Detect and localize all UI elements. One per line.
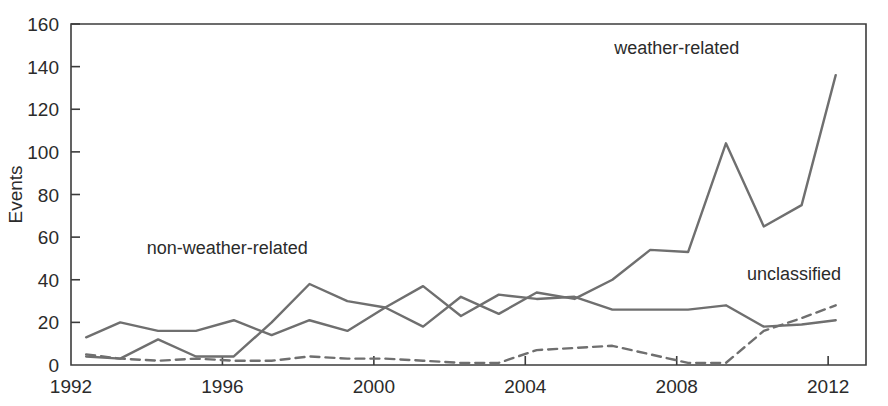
series-annotations: weather-relatednon-weather-relatedunclas… [147,38,841,284]
x-tick-label: 2000 [353,376,395,397]
y-tick-label: 20 [38,312,59,333]
y-tick-label: 60 [38,227,59,248]
x-tick-label: 1992 [50,376,92,397]
series-line-weather-related [86,75,836,337]
x-tick-label: 2008 [656,376,698,397]
y-tick-label: 120 [27,99,59,120]
series-lines [86,75,836,363]
series-label-unclassified: unclassified [747,264,841,284]
series-label-non-weather-related: non-weather-related [147,238,308,258]
x-tick-label: 2012 [807,376,849,397]
y-tick-label: 140 [27,57,59,78]
y-tick-label: 0 [48,355,59,376]
y-tick-label: 160 [27,14,59,35]
line-chart: 020406080100120140160 199219962000200420… [0,0,888,406]
series-line-unclassified [86,305,836,363]
series-label-weather-related: weather-related [613,38,739,58]
y-axis-title: Events [5,165,26,223]
x-tick-label: 2004 [504,376,547,397]
series-line-non-weather-related [86,284,836,359]
plot-frame [71,24,866,365]
axes [71,24,866,365]
y-axis-ticks: 020406080100120140160 [27,14,80,376]
x-tick-label: 1996 [201,376,243,397]
chart-container: 020406080100120140160 199219962000200420… [0,0,888,406]
y-tick-label: 100 [27,142,59,163]
y-tick-label: 80 [38,185,59,206]
y-tick-label: 40 [38,270,59,291]
